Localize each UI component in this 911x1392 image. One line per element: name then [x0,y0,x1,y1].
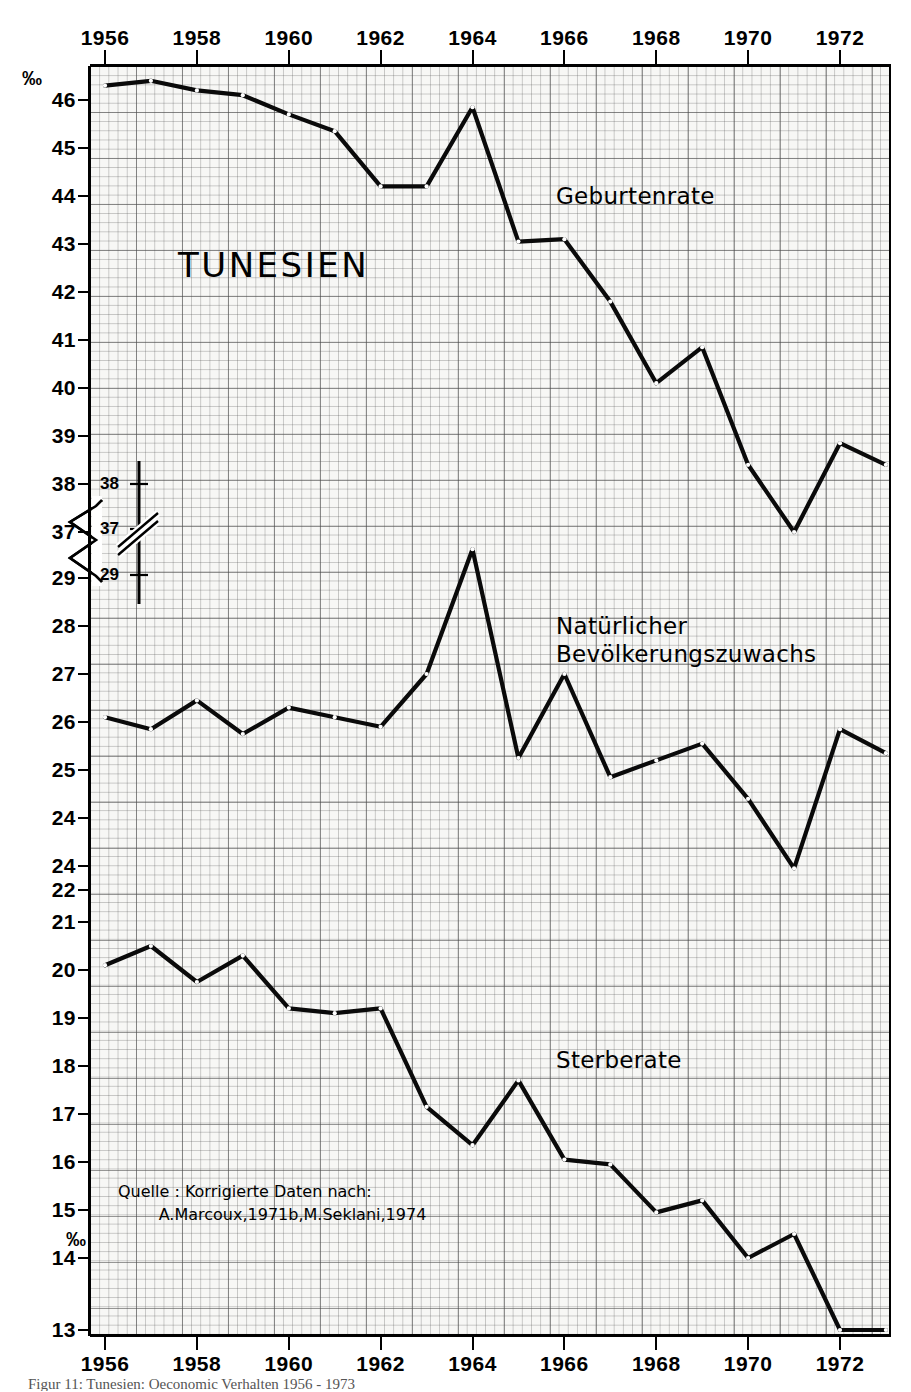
y-tick-label: 46 [52,88,76,112]
x-tick-label-bottom: 1964 [448,1352,497,1376]
x-tick-mark-top [380,50,382,66]
y-tick-label: 18 [52,1054,76,1078]
y-tick-mark [78,817,89,819]
y-tick-label: 19 [52,1006,76,1030]
y-tick-label: 26 [52,710,76,734]
x-tick-mark-bottom [655,1336,657,1350]
x-tick-label-bottom: 1966 [540,1352,589,1376]
x-tick-mark-bottom [472,1336,474,1350]
x-tick-label-top: 1968 [632,26,681,50]
inset-secondary-scale: 38 37 29 [100,455,160,610]
y-tick-mark [78,1257,89,1259]
y-tick-label: 25 [52,758,76,782]
y-tick-label: 45 [52,136,76,160]
series-label-geburtenrate: Geburtenrate [556,182,715,210]
x-tick-mark-bottom [747,1336,749,1350]
y-tick-label: 41 [52,328,76,352]
y-tick-mark [78,1017,89,1019]
inset-scale-label-29: 29 [100,565,119,585]
x-tick-mark-top [655,50,657,66]
y-tick-mark [78,1113,89,1115]
y-tick-label: 17 [52,1102,76,1126]
x-tick-mark-bottom [563,1336,565,1350]
y-tick-mark [78,721,89,723]
x-tick-mark-top [472,50,474,66]
y-tick-label: 22 [52,878,76,902]
figure-caption: Figur 11: Tunesien: Oeconomic Verhalten … [28,1376,355,1391]
x-tick-label-top: 1970 [724,26,773,50]
y-tick-mark [78,625,89,627]
x-tick-label-top: 1956 [81,26,130,50]
y-tick-label: 27 [52,662,76,686]
x-tick-mark-top [196,50,198,66]
y-tick-mark [78,969,89,971]
y-tick-mark [78,147,89,149]
y-tick-label: 28 [52,614,76,638]
y-tick-label: 21 [52,910,76,934]
axis-break-zigzag [56,496,102,586]
y-tick-mark [78,865,89,867]
x-tick-mark-bottom [196,1336,198,1350]
permille-unit-top: ‰ [22,67,42,90]
x-tick-mark-bottom [839,1336,841,1350]
y-tick-mark [78,769,89,771]
inset-scale-label-38: 38 [100,474,119,494]
chart-title: TUNESIEN [178,245,369,285]
x-tick-label-bottom: 1970 [724,1352,773,1376]
x-tick-mark-bottom [104,1336,106,1350]
y-tick-mark [78,291,89,293]
y-tick-mark [78,435,89,437]
y-tick-mark [78,339,89,341]
x-tick-mark-top [288,50,290,66]
x-tick-label-top: 1958 [173,26,222,50]
x-tick-label-bottom: 1968 [632,1352,681,1376]
x-tick-label-top: 1960 [264,26,313,50]
x-tick-label-bottom: 1958 [173,1352,222,1376]
y-tick-mark [78,889,89,891]
y-tick-label: 42 [52,280,76,304]
x-tick-label-bottom: 1956 [81,1352,130,1376]
x-tick-mark-top [104,50,106,66]
axis-bottom-rule [90,1334,891,1337]
series-label-natuerlicher-bevoelkerungszuwachs: Natürlicher Bevölkerungszuwachs [556,612,816,668]
y-tick-label: 38 [52,472,76,496]
y-tick-mark [78,243,89,245]
y-tick-mark [78,921,89,923]
series-label-sterberate: Sterberate [556,1046,682,1074]
y-tick-label: 20 [52,958,76,982]
x-tick-label-top: 1964 [448,26,497,50]
x-tick-mark-bottom [288,1336,290,1350]
x-tick-label-bottom: 1960 [264,1352,313,1376]
permille-unit-bottom: ‰ [66,1228,86,1251]
y-tick-mark [78,483,89,485]
y-tick-mark [78,1209,89,1211]
y-tick-label: 44 [52,184,76,208]
axis-right-rule [889,66,891,1336]
x-tick-mark-top [839,50,841,66]
inset-scale-label-37: 37 [100,519,119,539]
y-tick-mark [78,99,89,101]
y-tick-label: 13 [52,1318,76,1342]
y-tick-mark [78,1065,89,1067]
y-tick-label: 40 [52,376,76,400]
y-tick-mark [78,195,89,197]
x-tick-label-bottom: 1972 [816,1352,865,1376]
y-tick-label: 43 [52,232,76,256]
y-tick-label: 15 [52,1198,76,1222]
axis-top-rule [90,64,891,67]
y-tick-label: 16 [52,1150,76,1174]
y-tick-label: 24 [52,854,76,878]
figure-tunesien-demography: 4645444342414039383729282726252424222120… [0,0,911,1392]
x-tick-label-top: 1962 [356,26,405,50]
source-note: Quelle : Korrigierte Daten nach: A.Marco… [118,1180,426,1226]
x-tick-mark-bottom [380,1336,382,1350]
x-tick-mark-top [563,50,565,66]
x-tick-mark-top [747,50,749,66]
y-tick-mark [78,1161,89,1163]
y-tick-label: 24 [52,806,76,830]
y-axis-labels: 4645444342414039383729282726252424222120… [0,0,76,1392]
x-tick-label-top: 1966 [540,26,589,50]
x-tick-label-top: 1972 [816,26,865,50]
y-tick-mark [78,1329,89,1331]
y-tick-mark [78,387,89,389]
